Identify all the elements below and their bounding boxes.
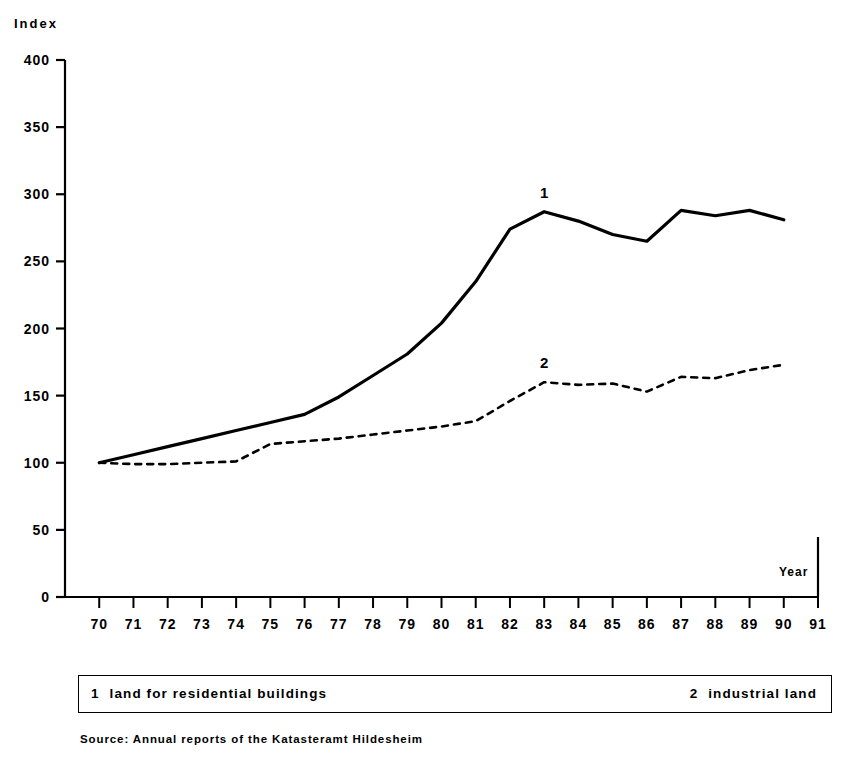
x-tick-label: 71	[125, 616, 143, 632]
y-tick-label: 150	[24, 388, 50, 404]
legend-key-1: 1	[91, 686, 100, 701]
series-label-2: 2	[540, 354, 548, 371]
y-tick-label: 350	[24, 119, 50, 135]
line-chart-plot: 050100150200250300350400 707172737475767…	[0, 0, 861, 764]
x-tick-label: 72	[159, 616, 177, 632]
chart-figure: Index Year 050100150200250300350400 7071…	[0, 0, 861, 764]
y-tick-label: 400	[24, 52, 50, 68]
y-tick-label: 100	[24, 455, 50, 471]
x-tick-label: 84	[570, 616, 588, 632]
x-tick-label: 87	[672, 616, 690, 632]
x-tick-label: 76	[296, 616, 314, 632]
y-axis: 050100150200250300350400	[24, 52, 65, 605]
x-tick-label: 82	[501, 616, 519, 632]
x-tick-label: 75	[262, 616, 280, 632]
x-tick-label: 86	[638, 616, 656, 632]
x-tick-label: 77	[330, 616, 348, 632]
x-tick-label: 88	[707, 616, 725, 632]
x-axis: 7071727374757677787980818283848586878889…	[65, 537, 827, 632]
source-note: Source: Annual reports of the Katasteram…	[80, 733, 423, 745]
legend-key-2: 2	[690, 686, 699, 701]
x-tick-label: 70	[90, 616, 108, 632]
x-tick-label: 81	[467, 616, 485, 632]
series-line-2	[99, 365, 784, 464]
series-line-1	[99, 210, 784, 462]
x-tick-label: 78	[364, 616, 382, 632]
legend-entry-industrial: 2industrial land	[690, 686, 817, 701]
x-tick-label: 83	[535, 616, 553, 632]
x-tick-label: 79	[398, 616, 416, 632]
y-tick-label: 300	[24, 186, 50, 202]
x-tick-label: 80	[433, 616, 451, 632]
series-label-1: 1	[540, 184, 548, 201]
data-series-group	[99, 210, 784, 464]
x-tick-label: 73	[193, 616, 211, 632]
x-tick-label: 90	[775, 616, 793, 632]
legend-label-1: land for residential buildings	[110, 686, 328, 701]
x-tick-label: 74	[227, 616, 245, 632]
y-tick-label: 200	[24, 321, 50, 337]
y-tick-label: 0	[41, 589, 50, 605]
legend: 1land for residential buildings 2industr…	[78, 675, 832, 713]
y-tick-label: 250	[24, 253, 50, 269]
legend-entry-residential: 1land for residential buildings	[91, 686, 327, 701]
x-tick-label: 91	[809, 616, 827, 632]
x-tick-label: 89	[741, 616, 759, 632]
y-tick-label: 50	[32, 522, 50, 538]
x-tick-label: 85	[604, 616, 622, 632]
legend-label-2: industrial land	[708, 686, 817, 701]
